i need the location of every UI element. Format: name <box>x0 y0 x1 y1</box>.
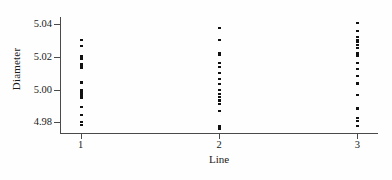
data-point <box>356 120 359 122</box>
data-point <box>80 82 83 84</box>
data-point <box>80 106 83 108</box>
data-point <box>80 57 83 59</box>
data-point <box>218 83 221 85</box>
data-point <box>356 107 359 109</box>
data-point <box>356 125 359 127</box>
data-point <box>218 89 221 91</box>
scatter-plot-figure: Diameter 5.045.025.004.98 123 Line <box>0 0 392 180</box>
data-point <box>218 54 221 56</box>
data-point <box>356 54 359 56</box>
data-point <box>218 100 221 102</box>
data-point <box>80 66 83 68</box>
data-point <box>80 94 83 96</box>
data-point <box>218 39 221 41</box>
data-point <box>356 117 359 119</box>
data-point <box>356 94 359 96</box>
data-point <box>356 41 359 43</box>
data-point <box>80 91 83 93</box>
data-point <box>80 39 83 41</box>
x-axis-title: Line <box>60 152 378 166</box>
data-point <box>356 30 359 32</box>
data-point <box>218 52 221 54</box>
data-point <box>218 27 221 29</box>
data-point <box>356 75 359 77</box>
data-point <box>356 22 359 24</box>
data-point <box>80 55 83 57</box>
y-axis-line <box>60 17 61 134</box>
data-point <box>218 128 221 130</box>
data-point <box>356 108 359 110</box>
data-point <box>218 99 221 101</box>
data-point <box>356 47 359 49</box>
data-point <box>80 114 83 116</box>
data-point <box>356 62 359 64</box>
data-point <box>80 93 83 95</box>
data-point <box>356 36 359 38</box>
data-point <box>80 63 83 65</box>
data-point <box>80 58 83 60</box>
x-axis-tick-label: 3 <box>345 139 369 151</box>
data-point <box>218 125 221 127</box>
data-point <box>80 45 83 47</box>
data-point <box>80 97 83 99</box>
data-point <box>218 93 221 95</box>
data-point <box>218 62 221 64</box>
data-point <box>356 68 359 70</box>
data-point <box>356 39 359 41</box>
data-point <box>356 52 359 54</box>
y-axis-tick-label: 5.00 <box>18 85 52 95</box>
y-axis-tick-label: 5.04 <box>18 19 52 29</box>
data-point <box>80 90 83 92</box>
data-point <box>80 64 83 66</box>
data-point <box>218 96 221 98</box>
y-axis-tick <box>54 24 60 25</box>
x-axis-tick-label: 2 <box>207 139 231 151</box>
y-axis-tick <box>54 122 60 123</box>
x-axis-tick-label: 1 <box>69 139 93 151</box>
data-point <box>356 82 359 84</box>
y-axis-tick-label: 4.98 <box>18 117 52 127</box>
data-point <box>80 89 83 91</box>
data-point <box>356 44 359 46</box>
data-point <box>218 66 221 68</box>
data-point <box>80 121 83 123</box>
y-axis-tick <box>54 57 60 58</box>
data-point <box>356 83 359 85</box>
data-point <box>80 96 83 98</box>
data-point <box>218 127 221 129</box>
data-point <box>80 124 83 126</box>
y-axis-tick-label: 5.02 <box>18 52 52 62</box>
data-point <box>80 67 83 69</box>
data-point <box>80 81 83 83</box>
data-point <box>218 78 221 80</box>
y-axis-tick <box>54 90 60 91</box>
data-point <box>356 55 359 57</box>
data-point <box>218 72 221 74</box>
data-point <box>218 110 221 112</box>
data-point <box>218 103 221 105</box>
